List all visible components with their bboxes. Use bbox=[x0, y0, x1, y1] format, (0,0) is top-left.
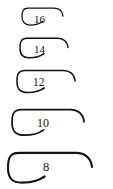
hook-size-label: 8 bbox=[43, 161, 49, 174]
hook-row bbox=[0, 36, 113, 61]
hook-illustration bbox=[0, 68, 113, 96]
hook-size-chart: 161412108 bbox=[0, 0, 113, 189]
hook-size-label: 16 bbox=[34, 14, 45, 25]
hook-body-path bbox=[17, 70, 75, 92]
hook-illustration bbox=[0, 36, 113, 61]
hook-size-label: 14 bbox=[34, 44, 45, 55]
hook-row bbox=[0, 6, 113, 28]
hook-size-label: 12 bbox=[33, 77, 45, 89]
hook-size-label: 10 bbox=[37, 117, 49, 129]
hook-row bbox=[0, 150, 113, 187]
hook-illustration bbox=[0, 107, 113, 139]
hook-body-path bbox=[8, 153, 92, 183]
hook-illustration bbox=[0, 6, 113, 28]
hook-illustration bbox=[0, 150, 113, 187]
hook-row bbox=[0, 107, 113, 139]
hook-row bbox=[0, 68, 113, 96]
